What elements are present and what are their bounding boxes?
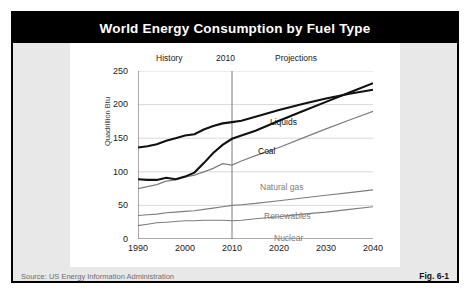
y-tick-150: 150 <box>98 133 128 143</box>
slide-body: Quadrillion Btu 250 200 150 100 50 0 His… <box>13 43 457 285</box>
chart-panel: Quadrillion Btu 250 200 150 100 50 0 His… <box>70 43 400 267</box>
annotation-projections: Projections <box>275 53 317 63</box>
slide-footer: Source: US Energy Information Administra… <box>13 267 457 285</box>
x-tick-2010: 2010 <box>212 243 252 253</box>
series-label-nuclear: Nuclear <box>274 233 303 243</box>
x-tick-2040: 2040 <box>353 243 393 253</box>
figure-number: Fig. 6-1 <box>419 271 449 281</box>
source-attribution: Source: US Energy Information Administra… <box>21 272 174 281</box>
annotation-2010: 2010 <box>216 53 235 63</box>
annotation-history: History <box>156 53 182 63</box>
x-tick-1990: 1990 <box>118 243 158 253</box>
page-title: World Energy Consumption by Fuel Type <box>100 21 371 36</box>
plot-area <box>138 71 373 239</box>
y-tick-250: 250 <box>98 66 128 76</box>
x-tick-2000: 2000 <box>165 243 205 253</box>
y-axis-title: Quadrillion Btu <box>103 77 112 167</box>
series-label-coal: Coal <box>258 146 275 156</box>
series-line-coal <box>138 83 373 180</box>
series-label-natural-gas: Natural gas <box>260 182 303 192</box>
y-tick-100: 100 <box>98 167 128 177</box>
x-tick-2030: 2030 <box>306 243 346 253</box>
series-label-renewables: Renewables <box>264 211 311 221</box>
series-line-renewables <box>138 190 373 216</box>
series-line-natural-gas <box>138 111 373 188</box>
slide-frame: World Energy Consumption by Fuel Type Qu… <box>11 11 459 283</box>
series-line-liquids <box>138 90 373 148</box>
series-label-liquids: Liquids <box>270 117 297 127</box>
y-tick-50: 50 <box>98 200 128 210</box>
y-tick-200: 200 <box>98 99 128 109</box>
slide-title-bar: World Energy Consumption by Fuel Type <box>13 13 457 43</box>
series-line-nuclear <box>138 207 373 226</box>
x-tick-2020: 2020 <box>259 243 299 253</box>
